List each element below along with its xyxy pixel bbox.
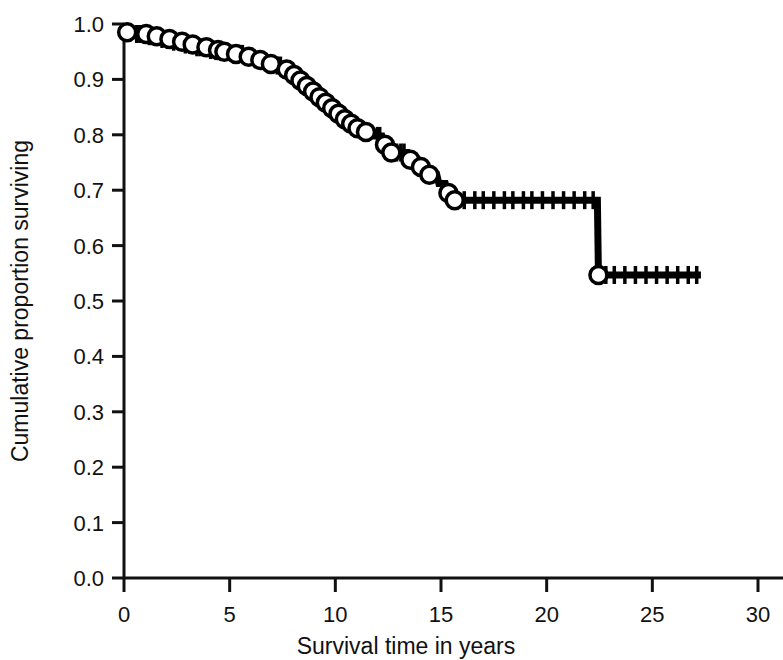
censor-circle-marker — [383, 144, 400, 161]
y-tick-label: 0.4 — [73, 344, 104, 369]
y-tick-label: 0.8 — [73, 123, 104, 148]
y-tick-label: 1.0 — [73, 12, 104, 37]
y-tick-label: 0.5 — [73, 289, 104, 314]
censor-circle-marker — [590, 266, 607, 283]
y-tick-label: 0.2 — [73, 455, 104, 480]
x-tick-label: 15 — [429, 602, 453, 627]
y-tick-label: 0.3 — [73, 400, 104, 425]
chart-background — [0, 0, 783, 660]
y-tick-label: 0.9 — [73, 67, 104, 92]
censor-circle-marker — [119, 24, 136, 41]
x-tick-label: 10 — [323, 602, 347, 627]
y-tick-label: 0.0 — [73, 566, 104, 591]
x-tick-label: 30 — [746, 602, 770, 627]
censor-circle-marker — [446, 192, 463, 209]
y-tick-label: 0.7 — [73, 178, 104, 203]
x-tick-label: 20 — [534, 602, 558, 627]
x-tick-label: 0 — [118, 602, 130, 627]
survival-curve-chart: 0.00.10.20.30.40.50.60.70.80.91.0 051015… — [0, 0, 783, 660]
x-tick-label: 5 — [224, 602, 236, 627]
censor-circle-marker — [357, 124, 374, 141]
x-axis-title: Survival time in years — [297, 633, 516, 659]
x-tick-label: 25 — [640, 602, 664, 627]
censor-circle-marker — [421, 166, 438, 183]
y-tick-label: 0.1 — [73, 511, 104, 536]
y-axis-title: Cumulative proportion surviving — [7, 140, 33, 462]
y-tick-label: 0.6 — [73, 234, 104, 259]
